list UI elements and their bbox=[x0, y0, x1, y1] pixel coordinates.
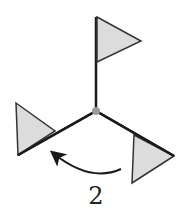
rotation-arrow-icon bbox=[53, 153, 121, 173]
rotation-diagram: 2 bbox=[0, 0, 183, 212]
rotation-label: 2 bbox=[86, 182, 106, 210]
left-flag bbox=[16, 103, 96, 155]
diagram-canvas bbox=[0, 0, 183, 212]
center-hub bbox=[92, 107, 100, 115]
top-flag bbox=[96, 17, 141, 111]
